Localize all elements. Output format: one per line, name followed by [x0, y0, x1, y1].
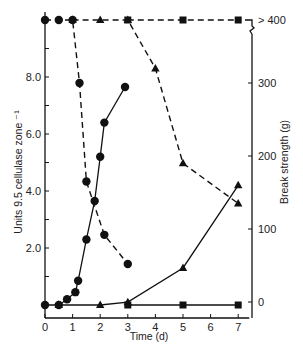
x-tick-label: 1 [70, 321, 76, 333]
y2-tick-label: > 400 [258, 14, 286, 26]
triangle-marker [96, 16, 104, 24]
x-tick-label: 0 [42, 321, 48, 333]
x-tick-label: 6 [208, 321, 214, 333]
circle-marker [96, 153, 104, 161]
circle-marker [41, 301, 49, 309]
y-tick-label: 8.0 [26, 71, 41, 83]
circle-marker [41, 16, 49, 24]
y2-axis-title: Break strength (g) [278, 120, 290, 204]
y2-tick-label: 300 [258, 77, 276, 89]
triangle-marker [234, 181, 242, 189]
square-marker [180, 17, 187, 24]
circle-marker [74, 277, 82, 285]
triangle-marker [179, 159, 187, 167]
square-marker [124, 17, 131, 24]
chart-container: 012345672.04.06.08.00100200300> 400 Time… [0, 0, 303, 351]
x-tick-label: 2 [97, 321, 103, 333]
x-axis-title: Time (d) [130, 330, 169, 342]
circle-marker [55, 16, 63, 24]
y-axis-title: Units 9.5 cellulase zone ⁻¹ [12, 110, 24, 234]
y-tick-label: 2.0 [26, 242, 41, 254]
triangle-marker [151, 64, 159, 72]
y-tick-label: 6.0 [26, 128, 41, 140]
x-tick-label: 7 [235, 321, 241, 333]
square-marker [124, 302, 131, 309]
circle-marker [75, 79, 83, 87]
circle-marker [100, 231, 108, 239]
circle-marker [100, 118, 108, 126]
y2-tick-label: 200 [258, 150, 276, 162]
circle-marker [71, 288, 79, 296]
series-line [45, 87, 125, 305]
square-marker [235, 17, 242, 24]
x-tick-label: 5 [180, 321, 186, 333]
circle-marker [124, 260, 132, 268]
axis-break-icon [245, 20, 254, 34]
circle-marker [82, 177, 90, 185]
chart-svg: 012345672.04.06.08.00100200300> 400 Time… [0, 0, 303, 351]
series-line [45, 20, 128, 264]
triangle-marker [234, 199, 242, 207]
circle-marker [90, 197, 98, 205]
circle-marker [121, 83, 129, 91]
y2-tick-label: 100 [258, 223, 276, 235]
circle-marker [82, 235, 90, 243]
y-tick-label: 4.0 [26, 185, 41, 197]
plot-series [41, 16, 243, 310]
circle-marker [63, 295, 71, 303]
square-marker [180, 302, 187, 309]
square-marker [235, 302, 242, 309]
y2-tick-label: 0 [258, 296, 264, 308]
axis-labels: Time (d) Units 9.5 cellulase zone ⁻¹ Bre… [12, 110, 290, 342]
